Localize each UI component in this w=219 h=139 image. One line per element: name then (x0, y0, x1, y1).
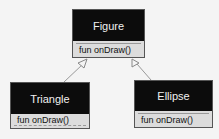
class-figure-methods: fun onDraw() (73, 41, 144, 57)
arrow-triangle-to-figure (64, 59, 87, 82)
method-ondraw: fun onDraw() (141, 115, 193, 125)
class-triangle-methods: fun onDraw() (11, 114, 89, 128)
class-ellipse-name: Ellipse (135, 81, 212, 111)
class-ellipse[interactable]: Ellipse fun onDraw() (134, 80, 213, 128)
inheritance-arrowhead-icon (78, 59, 87, 68)
divider (76, 43, 141, 44)
class-ellipse-methods: fun onDraw() (135, 111, 212, 127)
divider (14, 125, 86, 126)
class-triangle[interactable]: Triangle fun onDraw() (10, 82, 90, 129)
arrow-ellipse-to-figure (132, 59, 151, 80)
class-figure-name: Figure (73, 10, 144, 41)
divider (138, 113, 209, 114)
class-figure[interactable]: Figure fun onDraw() (72, 9, 145, 58)
method-ondraw: fun onDraw() (79, 45, 131, 55)
class-triangle-name: Triangle (11, 83, 89, 114)
method-ondraw: fun onDraw() (17, 115, 69, 125)
